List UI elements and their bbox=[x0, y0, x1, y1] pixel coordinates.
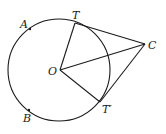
segment-TC bbox=[75, 23, 145, 44]
label-C: C bbox=[148, 39, 157, 52]
circle bbox=[8, 19, 110, 121]
segment-OC bbox=[60, 44, 145, 70]
label-B: B bbox=[22, 112, 31, 125]
segment-OT bbox=[60, 23, 75, 70]
label-T: T bbox=[72, 9, 81, 22]
label-O: O bbox=[48, 65, 57, 78]
label-A: A bbox=[19, 18, 28, 31]
segment-OT-prime bbox=[60, 70, 100, 102]
label-T-prime: T′ bbox=[102, 103, 112, 116]
tangent-circle-diagram: A T C O T′ B bbox=[0, 0, 166, 134]
point-B bbox=[28, 109, 30, 111]
point-A bbox=[29, 28, 31, 30]
